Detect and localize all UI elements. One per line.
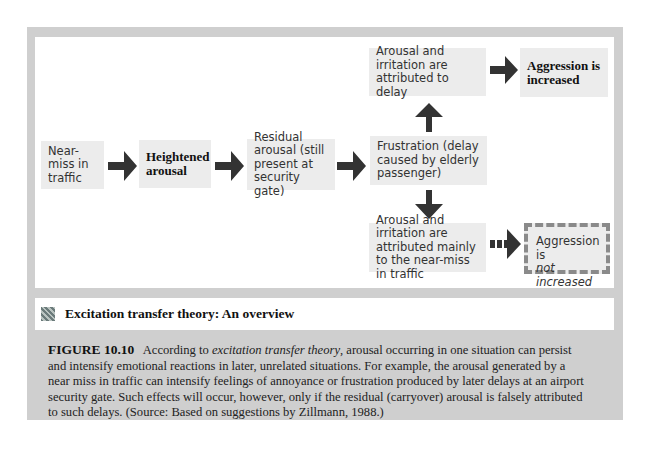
arrow-right-icon [337, 150, 367, 182]
box-aggression-not-increased: Aggression is not increased [524, 223, 610, 274]
figure-caption: FIGURE 10.10 According to excitation tra… [48, 342, 588, 421]
box-aggression-increased: Aggression is increased [520, 48, 608, 97]
figure-thumbnail-icon [41, 307, 55, 321]
arrow-right-icon [490, 55, 520, 85]
box-heightened-arousal: Heightened arousal [139, 140, 211, 188]
box-near-miss: Near-miss in traffic [41, 141, 104, 189]
caption-text-1: According to [143, 343, 212, 357]
box-attributed-to-near-miss: Arousal and irritation are attributed ma… [369, 223, 486, 272]
box-residual-arousal: Residual arousal (still present at secur… [247, 139, 335, 190]
aggression-not-line1: Aggression is [536, 235, 599, 262]
figure-title-band: Excitation transfer theory: An overview [35, 298, 614, 330]
aggression-not-line2: not increased [536, 262, 599, 289]
arrow-up-icon [414, 102, 444, 132]
arrow-right-icon [108, 150, 138, 182]
arrow-right-icon [215, 150, 245, 182]
flow-diagram: Near-miss in traffic Heightened arousal … [35, 37, 614, 288]
dotted-arrow-right-icon [490, 228, 522, 260]
caption-italic-term: excitation transfer theory [212, 343, 340, 357]
figure-label: FIGURE 10.10 [48, 342, 134, 357]
box-frustration: Frustration (delay caused by elderly pas… [370, 136, 487, 185]
figure-title: Excitation transfer theory: An overview [65, 306, 294, 322]
box-attributed-to-delay: Arousal and irritation are attributed to… [369, 48, 486, 96]
